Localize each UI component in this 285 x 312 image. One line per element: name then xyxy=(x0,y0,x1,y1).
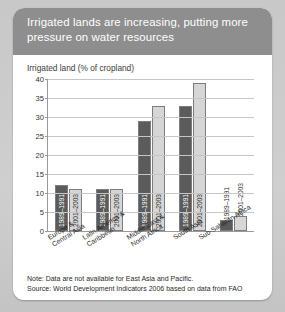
y-axis-tick-label: 40 xyxy=(36,75,44,84)
chart-plot: 1989–19912001–20031989–19912001–20031989… xyxy=(47,79,254,232)
chart-axis-title: Irrigated land (% of cropland) xyxy=(27,63,134,73)
y-axis-tick-label: 10 xyxy=(36,189,44,198)
gridline xyxy=(48,98,254,99)
y-axis-tick-label: 30 xyxy=(36,113,44,122)
y-axis-tick-label: 0 xyxy=(40,227,44,236)
chart-plot-area: 1989–19912001–20031989–19912001–20031989… xyxy=(13,79,272,300)
bar: 2001–2003 xyxy=(193,83,206,231)
gridline xyxy=(48,79,254,80)
y-axis-tick-mark xyxy=(45,231,48,232)
y-axis-tick-mark xyxy=(45,136,48,137)
y-axis-tick-label: 25 xyxy=(36,132,44,141)
y-axis-tick-mark xyxy=(45,155,48,156)
gridline xyxy=(48,117,254,118)
chart-footnotes: Note: Data are not available for East As… xyxy=(27,274,242,293)
y-axis-tick-mark xyxy=(45,117,48,118)
gridline xyxy=(48,174,254,175)
y-axis-tick-mark xyxy=(45,98,48,99)
card-title: Irrigated lands are increasing, putting … xyxy=(27,15,258,44)
bar: 1989–1991 xyxy=(138,121,151,231)
y-axis-tick-mark xyxy=(45,193,48,194)
card-header: Irrigated lands are increasing, putting … xyxy=(13,8,272,55)
chart-note: Note: Data are not available for East As… xyxy=(27,274,242,284)
chart-source: Source: World Development Indicators 200… xyxy=(27,284,242,294)
y-axis-tick-mark xyxy=(45,79,48,80)
figure-card: Irrigated lands are increasing, putting … xyxy=(13,8,272,300)
bar-period-label: 1989–1991 xyxy=(182,194,189,227)
bar-period-label: 1989–1991 xyxy=(58,194,65,227)
card-body: Irrigated land (% of cropland) 1989–1991… xyxy=(13,55,272,300)
gridline xyxy=(48,212,254,213)
y-axis-tick-mark xyxy=(45,212,48,213)
y-axis-tick-label: 35 xyxy=(36,94,44,103)
y-axis-tick-label: 20 xyxy=(36,151,44,160)
y-axis-tick-label: 15 xyxy=(36,170,44,179)
y-axis-tick-label: 5 xyxy=(40,208,44,217)
y-axis-tick-mark xyxy=(45,174,48,175)
gridline xyxy=(48,136,254,137)
gridline xyxy=(48,193,254,194)
gridline xyxy=(48,155,254,156)
